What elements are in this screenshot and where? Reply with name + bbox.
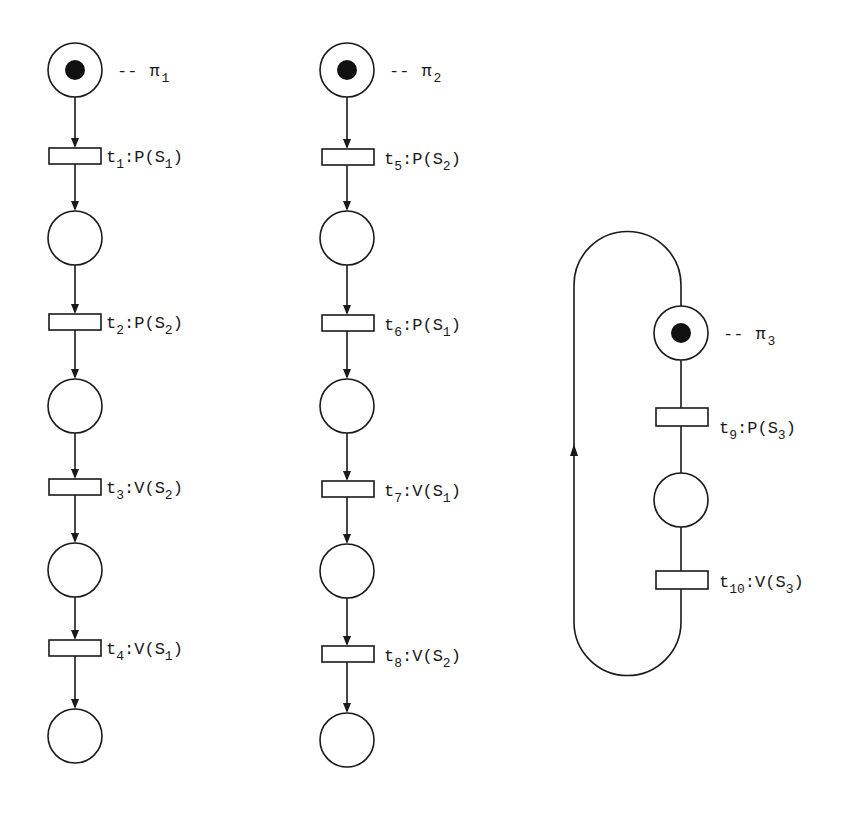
petri-net-diagram: --π1 t1:P(S1) t2:P(S2) t3:V(S2) t4:V(S1): [0, 0, 868, 814]
place-p2_2: [320, 379, 374, 433]
arrowhead-icon: [343, 305, 351, 315]
transition-t5: [322, 149, 374, 165]
arrowhead-icon: [71, 138, 79, 148]
arrowhead-icon: [343, 139, 351, 149]
transition-label-t9: t9:P(S3): [719, 419, 796, 443]
token-icon: [337, 60, 357, 80]
arrowhead-icon: [71, 469, 79, 479]
transition-t1: [49, 148, 101, 164]
process-label-pi3: --π3: [723, 325, 775, 349]
transition-t9: [656, 408, 708, 426]
transition-t7: [322, 481, 374, 497]
transition-label-t1: t1:P(S1): [106, 148, 183, 172]
transition-label-t6: t6:P(S1): [384, 316, 461, 340]
place-p3_1: [654, 473, 708, 527]
transition-label-t8: t8:V(S2): [384, 647, 461, 671]
arrowhead-icon: [343, 703, 351, 713]
process-pi3: --π3 t9:P(S3) t10:V(S3): [570, 232, 804, 676]
transition-t4: [49, 640, 101, 656]
transition-label-t5: t5:P(S2): [384, 150, 461, 174]
transition-t3: [49, 479, 101, 495]
transition-t2: [49, 314, 101, 330]
arrowhead-icon: [71, 630, 79, 640]
place-p1_2: [48, 379, 102, 433]
transition-t6: [322, 315, 374, 331]
place-p2_1: [320, 211, 374, 265]
arrowhead-icon: [343, 471, 351, 481]
arrowhead-icon: [343, 369, 351, 379]
place-p2_3: [320, 544, 374, 598]
arrowhead-icon: [71, 201, 79, 211]
transition-label-t3: t3:V(S2): [106, 479, 183, 503]
place-p1_1: [48, 211, 102, 265]
place-p2_4: [320, 713, 374, 767]
process-label-pi1: --π1: [117, 62, 170, 86]
arrowhead-up-icon: [570, 444, 578, 456]
token-icon: [65, 60, 85, 80]
place-p1_3: [48, 543, 102, 597]
cycle-arc: [574, 232, 681, 676]
arrowhead-icon: [343, 534, 351, 544]
process-pi1: --π1 t1:P(S1) t2:P(S2) t3:V(S2) t4:V(S1): [48, 43, 183, 763]
process-pi2: --π2 t5:P(S2) t6:P(S1) t7:V(S1) t8:V(S2): [320, 43, 461, 767]
transition-t10: [656, 571, 708, 589]
transition-t8: [322, 646, 374, 662]
transition-label-t2: t2:P(S2): [106, 314, 183, 338]
transition-label-t4: t4:V(S1): [106, 640, 183, 664]
arrowhead-icon: [71, 699, 79, 709]
arrowhead-icon: [343, 201, 351, 211]
place-p1_4: [48, 709, 102, 763]
arrowhead-icon: [343, 636, 351, 646]
arrowhead-icon: [71, 533, 79, 543]
token-icon: [671, 323, 691, 343]
transition-label-t7: t7:V(S1): [384, 482, 461, 506]
arrowhead-icon: [71, 304, 79, 314]
process-label-pi2: --π2: [389, 62, 441, 86]
arrowhead-icon: [71, 369, 79, 379]
transition-label-t10: t10:V(S3): [719, 573, 804, 597]
